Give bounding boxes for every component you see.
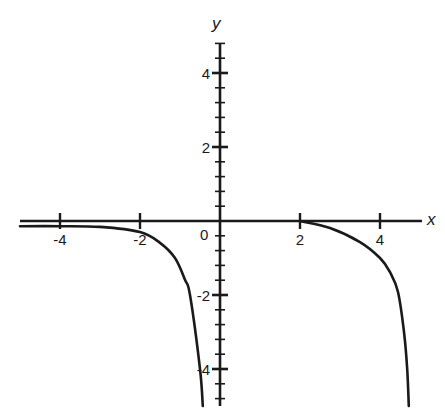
left-branch-curve bbox=[20, 226, 203, 406]
y-tick-label: -2 bbox=[197, 287, 210, 304]
y-axis-label: y bbox=[211, 14, 222, 33]
x-tick-label: -4 bbox=[53, 231, 66, 248]
axes bbox=[20, 43, 422, 406]
origin-label: 0 bbox=[200, 226, 208, 243]
x-tick-label: 4 bbox=[376, 231, 384, 248]
x-axis-label: x bbox=[426, 210, 436, 229]
y-tick-label: -4 bbox=[197, 361, 210, 378]
right-branch-curve bbox=[300, 221, 409, 406]
y-tick-label: 2 bbox=[202, 139, 210, 156]
curves bbox=[20, 221, 409, 406]
x-tick-label: 2 bbox=[296, 231, 304, 248]
x-tick-label: -2 bbox=[133, 231, 146, 248]
y-tick-label: 4 bbox=[202, 65, 210, 82]
function-graph: -4-22442-2-4 x y 0 bbox=[0, 0, 445, 419]
